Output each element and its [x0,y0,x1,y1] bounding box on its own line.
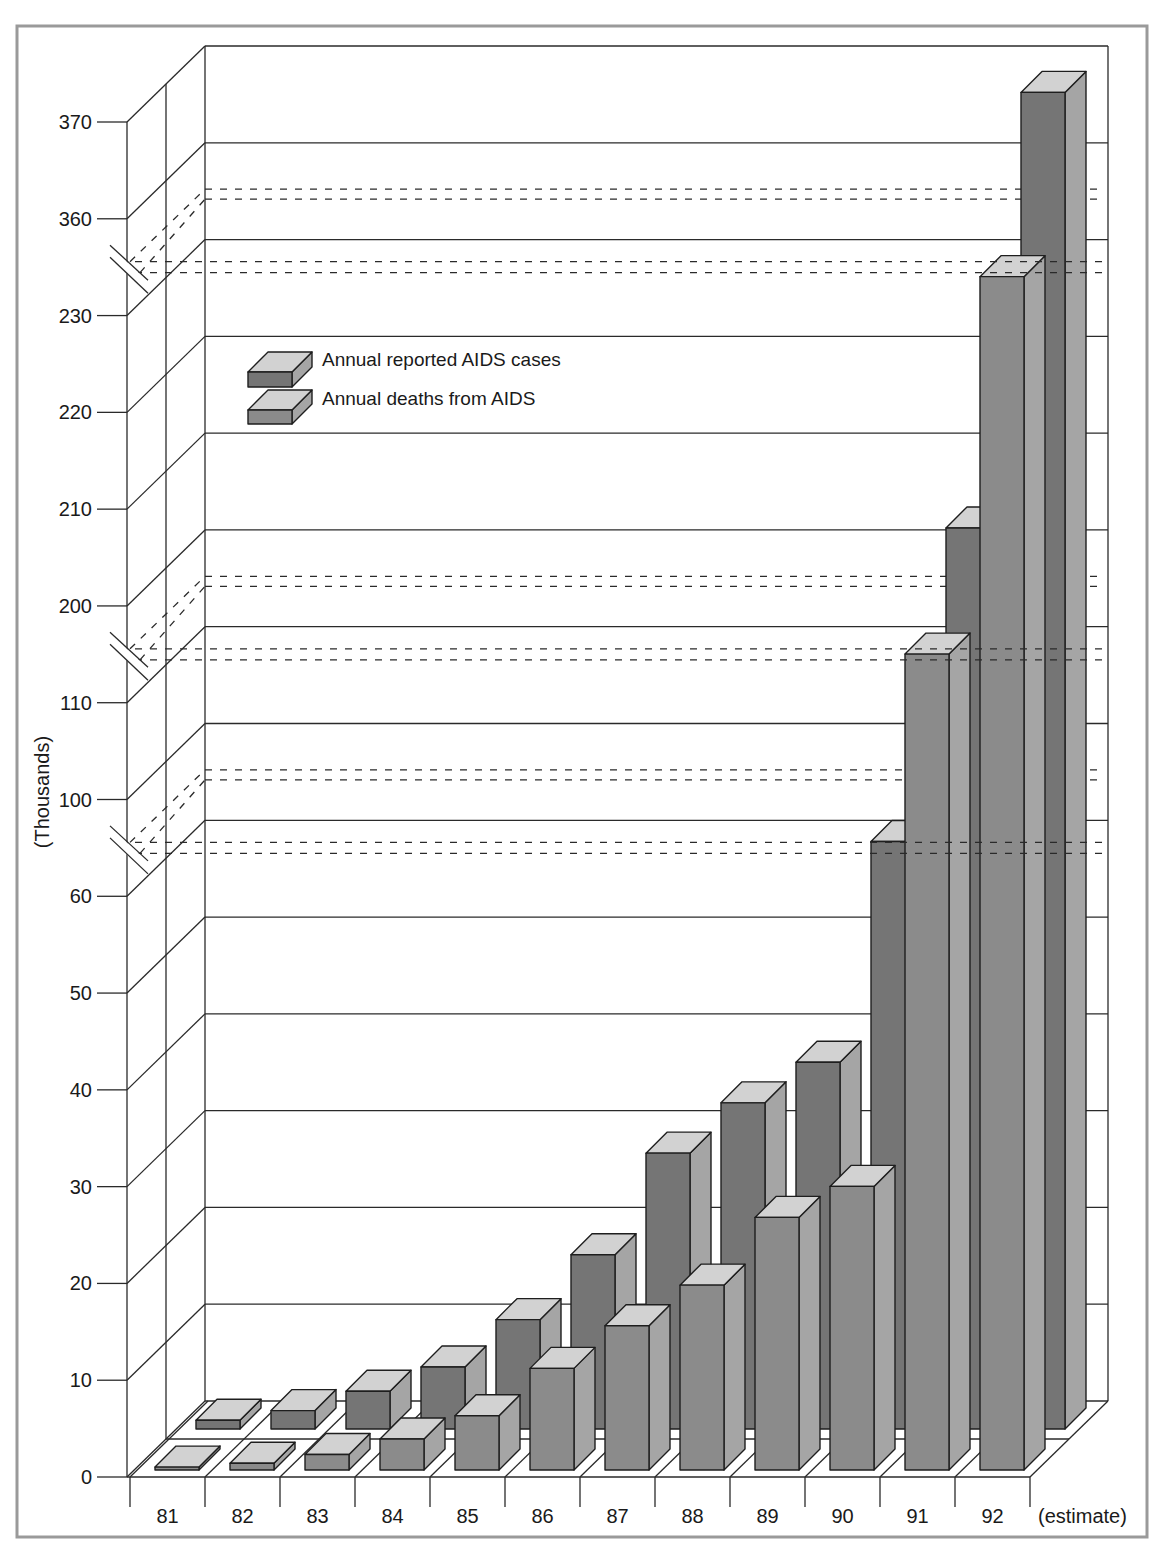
bar-cases-82 [271,1390,336,1429]
bar-front-face [605,1326,649,1470]
legend-item-deaths: Annual deaths from AIDS [248,388,535,424]
bar-front-face [905,654,949,1470]
x-axis-estimate-note: (estimate) [1038,1505,1127,1527]
y-tick-label: 50 [70,982,92,1004]
y-tick-label: 210 [59,498,92,520]
x-tick-label: 87 [606,1505,628,1527]
x-tick-label: 89 [756,1505,778,1527]
bar-front-face [455,1416,499,1470]
x-tick-label: 81 [156,1505,178,1527]
x-tick-label: 86 [531,1505,553,1527]
y-tick-label: 40 [70,1079,92,1101]
bar-deaths-88 [680,1264,745,1470]
y-tick-label: 100 [59,789,92,811]
bar-front-face [680,1285,724,1470]
y-tick-label: 0 [81,1466,92,1488]
legend: Annual reported AIDS casesAnnual deaths … [248,349,561,424]
bar-deaths-81 [155,1446,220,1470]
bar-front-face [196,1420,240,1429]
bar-front-face [530,1368,574,1470]
bar-deaths-92 [980,256,1045,1470]
bar-front-face [830,1186,874,1470]
bar-top-face [230,1442,295,1463]
x-tick-label: 85 [456,1505,478,1527]
bar-front-face [980,277,1024,1470]
bar-front-face [155,1467,199,1470]
x-tick-label: 88 [681,1505,703,1527]
chart-figure: Annual reported AIDS casesAnnual deaths … [0,0,1164,1558]
y-tick-label: 10 [70,1369,92,1391]
bar-deaths-90 [830,1165,895,1470]
y-tick-label: 220 [59,401,92,423]
bar-front-face [248,410,292,424]
bar-side-face [874,1165,895,1470]
bar-deaths-89 [755,1196,820,1470]
y-tick-label: 60 [70,885,92,907]
x-tick-label: 92 [981,1505,1003,1527]
bar-top-face [155,1446,220,1467]
y-tick-label: 30 [70,1176,92,1198]
bar-front-face [271,1411,315,1429]
bar-side-face [724,1264,745,1470]
legend-item-cases: Annual reported AIDS cases [248,349,561,387]
y-tick-label: 370 [59,111,92,133]
bar-front-face [380,1439,424,1470]
bar-deaths-82 [230,1442,295,1470]
bar-front-face [305,1455,349,1470]
bar-deaths-87 [605,1305,670,1470]
bar-front-face [230,1463,274,1470]
x-tick-label: 82 [231,1505,253,1527]
bar-side-face [649,1305,670,1470]
bar-side-face [1024,256,1045,1470]
legend-label: Annual deaths from AIDS [322,388,535,409]
x-tick-label: 90 [831,1505,853,1527]
bar-deaths-91 [905,633,970,1470]
x-tick-label: 91 [906,1505,928,1527]
bar-deaths-86 [530,1347,595,1470]
bar-front-face [248,372,292,387]
aids-3d-bar-chart: Annual reported AIDS casesAnnual deaths … [0,0,1164,1558]
x-tick-label: 84 [381,1505,403,1527]
legend-swatch [248,352,312,387]
legend-label: Annual reported AIDS cases [322,349,561,370]
y-tick-label: 20 [70,1272,92,1294]
y-axis-title: (Thousands) [31,736,53,848]
bar-side-face [949,633,970,1470]
bars-layer [155,71,1086,1470]
bar-deaths-85 [455,1395,520,1470]
y-tick-label: 110 [60,692,92,714]
y-tick-label: 230 [59,305,92,327]
legend-swatch [248,390,312,424]
x-tick-label: 83 [306,1505,328,1527]
bar-front-face [755,1217,799,1470]
y-tick-label: 200 [59,595,92,617]
y-tick-label: 360 [59,208,92,230]
bar-front-face [346,1391,390,1429]
bar-side-face [1065,71,1086,1429]
bar-side-face [799,1196,820,1470]
